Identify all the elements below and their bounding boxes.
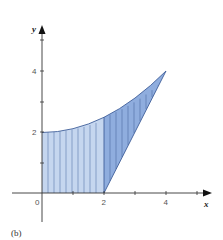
figure-caption: (b) — [11, 228, 22, 238]
y-axis-arrow-icon — [39, 25, 46, 34]
y-tick-label-4: 4 — [32, 67, 37, 76]
y-tick-label-2: 2 — [32, 128, 37, 137]
y-axis-label: y — [31, 24, 37, 34]
x-tick-label-0: 0 — [35, 198, 40, 207]
region-diagram: 0 2 4 2 4 x y (b) — [0, 0, 223, 240]
x-tick-label-4: 4 — [164, 198, 169, 207]
x-tick-label-2: 2 — [102, 198, 107, 207]
x-axis-arrow-icon — [203, 190, 212, 197]
x-axis-label: x — [203, 199, 209, 209]
